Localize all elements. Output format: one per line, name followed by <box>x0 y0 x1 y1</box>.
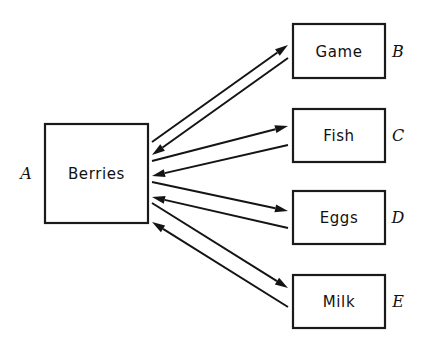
connection-game-to-berries <box>152 58 288 155</box>
connection-line <box>152 53 277 142</box>
connection-line <box>152 129 275 161</box>
connection-arrowhead <box>274 204 288 212</box>
node-milk[interactable]: MilkE <box>293 275 404 328</box>
node-label-berries: Berries <box>68 165 125 183</box>
connection-line <box>163 58 288 147</box>
connection-berries-to-eggs <box>152 182 288 212</box>
connection-arrowhead <box>152 196 166 204</box>
connection-eggs-to-berries <box>152 196 288 228</box>
node-label-fish: Fish <box>323 127 354 145</box>
connection-milk-to-berries <box>152 222 288 307</box>
node-label-game: Game <box>315 43 362 61</box>
connection-arrowhead <box>275 278 288 288</box>
node-eggs[interactable]: EggsD <box>293 191 405 244</box>
node-key-fish: C <box>392 126 404 145</box>
connection-line <box>163 229 288 307</box>
connection-arrowhead <box>274 125 288 133</box>
connection-line <box>152 203 277 281</box>
connections-layer <box>152 45 288 307</box>
connection-arrowhead <box>152 169 166 177</box>
diagram-canvas: BerriesAGameBFishCEggsDMilkE <box>0 0 437 346</box>
node-berries[interactable]: BerriesA <box>18 124 148 223</box>
node-game[interactable]: GameB <box>293 24 404 78</box>
node-key-milk: E <box>391 292 404 311</box>
connection-line <box>165 145 288 173</box>
connection-arrowhead <box>275 45 288 56</box>
exchange-diagram: BerriesAGameBFishCEggsDMilkE <box>0 0 437 346</box>
node-label-eggs: Eggs <box>320 209 359 227</box>
node-key-game: B <box>391 42 404 61</box>
nodes-layer: BerriesAGameBFishCEggsDMilkE <box>18 24 404 328</box>
connection-line <box>152 182 275 208</box>
connection-berries-to-milk <box>152 203 288 288</box>
node-key-eggs: D <box>391 208 405 227</box>
connection-arrowhead <box>152 222 165 232</box>
connection-line <box>165 200 288 228</box>
connection-berries-to-game <box>152 45 288 142</box>
connection-arrowhead <box>152 144 165 155</box>
connection-fish-to-berries <box>152 145 288 177</box>
connection-berries-to-fish <box>152 125 288 161</box>
node-fish[interactable]: FishC <box>293 109 404 162</box>
node-key-berries: A <box>18 164 32 183</box>
node-label-milk: Milk <box>323 293 355 311</box>
